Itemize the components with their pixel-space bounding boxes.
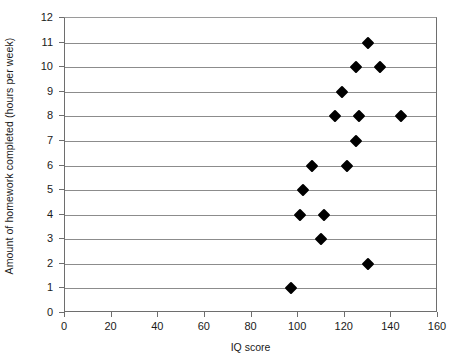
data-point <box>329 110 342 123</box>
x-axis-tick-label: 140 <box>381 320 399 332</box>
scatter-chart: Amount of homework completed (hours per … <box>0 0 456 363</box>
gridline <box>65 288 436 289</box>
x-axis-tick-mark <box>251 312 252 317</box>
y-axis-tick-label: 3 <box>47 232 53 244</box>
gridline <box>65 166 436 167</box>
y-axis-tick-label: 11 <box>42 36 53 48</box>
data-point <box>296 184 309 197</box>
x-axis-title: IQ score <box>64 341 437 353</box>
y-axis-title: Amount of homework completed (hours per … <box>0 0 18 312</box>
y-axis-tick-label: 1 <box>47 281 53 293</box>
data-point <box>315 233 328 246</box>
x-axis-tick-mark <box>157 312 158 317</box>
data-point <box>350 135 363 148</box>
data-point <box>294 208 307 221</box>
y-axis-tick-label: 5 <box>47 183 53 195</box>
y-axis-tick-label: 9 <box>47 85 53 97</box>
data-point <box>341 159 354 172</box>
x-axis-tick-label: 160 <box>428 320 446 332</box>
y-axis-tick-label: 2 <box>47 257 53 269</box>
data-point <box>317 208 330 221</box>
x-axis-tick-mark <box>437 312 438 317</box>
plot-area <box>64 17 437 312</box>
y-axis-tick-label: 12 <box>41 11 53 23</box>
x-axis-tick-mark <box>64 312 65 317</box>
x-axis-tick-marks <box>0 312 456 320</box>
x-axis-tick-label: 80 <box>244 320 256 332</box>
gridline <box>65 239 436 240</box>
data-point <box>336 85 349 98</box>
x-axis-tick-mark <box>344 312 345 317</box>
x-axis-tick-label: 20 <box>105 320 117 332</box>
y-axis-title-label: Amount of homework completed (hours per … <box>3 38 15 275</box>
x-axis-tick-label: 40 <box>151 320 163 332</box>
x-axis-tick-label: 60 <box>198 320 210 332</box>
x-axis-tick-mark <box>297 312 298 317</box>
data-point <box>362 257 375 270</box>
data-point <box>352 110 365 123</box>
x-axis-tick-mark <box>111 312 112 317</box>
data-point <box>306 159 319 172</box>
data-point <box>362 36 375 49</box>
gridline <box>65 92 436 93</box>
data-point <box>373 61 386 74</box>
x-axis-tick-label: 0 <box>61 320 67 332</box>
x-axis-tick-mark <box>390 312 391 317</box>
y-axis-tick-label: 4 <box>47 208 53 220</box>
x-axis-tick-mark <box>204 312 205 317</box>
gridline <box>65 264 436 265</box>
x-axis-tick-label: 100 <box>288 320 306 332</box>
gridline <box>65 116 436 117</box>
x-axis-tick-label: 120 <box>335 320 353 332</box>
data-point <box>394 110 407 123</box>
y-axis-tick-label: 10 <box>41 60 53 72</box>
y-axis-tick-labels: 0123456789101112 <box>18 0 60 363</box>
data-point <box>350 61 363 74</box>
y-axis-tick-label: 6 <box>47 159 53 171</box>
gridline <box>65 215 436 216</box>
data-point <box>285 282 298 295</box>
y-axis-tick-label: 7 <box>47 134 53 146</box>
gridline <box>65 43 436 44</box>
x-axis-tick-labels: 020406080100120140160 <box>0 320 456 336</box>
y-axis-tick-label: 8 <box>47 109 53 121</box>
gridline <box>65 141 436 142</box>
gridline <box>65 190 436 191</box>
